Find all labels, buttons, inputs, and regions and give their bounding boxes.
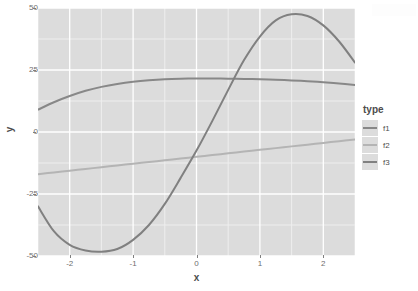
legend-item-f2[interactable]: f2: [362, 137, 416, 153]
legend-label: f1: [383, 124, 390, 133]
grid-major-lines: [38, 8, 355, 256]
y-tick-mark: [33, 8, 36, 9]
legend-key-icon: [362, 120, 378, 136]
y-tick-mark: [33, 70, 36, 71]
x-tick-label: 0: [182, 259, 212, 269]
y-axis-title: y: [4, 123, 15, 137]
x-tick-mark: [70, 255, 71, 258]
legend-item-f3[interactable]: f3: [362, 154, 416, 170]
x-tick: -1: [118, 259, 148, 269]
x-tick-mark: [260, 255, 261, 258]
chart-figure: -50-2502550 -2-1012 y x type f1f2f3: [0, 0, 418, 291]
legend-item-f1[interactable]: f1: [362, 120, 416, 136]
x-tick-label: 1: [245, 259, 275, 269]
x-tick: -2: [55, 259, 85, 269]
x-tick-label: -1: [118, 259, 148, 269]
y-tick-mark: [33, 256, 36, 257]
plot-panel: [38, 8, 355, 256]
legend-label: f3: [383, 158, 390, 167]
image-artifact: [372, 4, 416, 16]
legend-title: type: [362, 104, 416, 115]
x-tick: 0: [182, 259, 212, 269]
legend-label: f2: [383, 141, 390, 150]
legend-key-icon: [362, 154, 378, 170]
legend: type f1f2f3: [362, 104, 416, 171]
x-tick-label: -2: [55, 259, 85, 269]
plot-svg: [38, 8, 355, 256]
x-tick: 1: [245, 259, 275, 269]
y-tick-mark: [33, 132, 36, 133]
x-axis-title: x: [38, 272, 355, 283]
x-tick: 2: [308, 259, 338, 269]
legend-key-icon: [362, 137, 378, 153]
x-tick-mark: [323, 255, 324, 258]
legend-items: f1f2f3: [362, 120, 416, 170]
x-tick-label: 2: [308, 259, 338, 269]
y-tick-mark: [33, 194, 36, 195]
x-tick-mark: [197, 255, 198, 258]
x-tick-mark: [133, 255, 134, 258]
